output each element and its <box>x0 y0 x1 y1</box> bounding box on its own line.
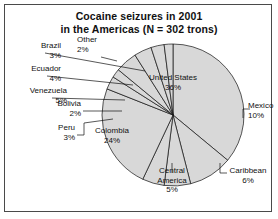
slice-label-colombia-name: Colombia <box>81 126 143 136</box>
leader-other <box>101 57 117 61</box>
pie-chart: Brazil 3% Ecuador 4% Venezuela 5% Bolivi… <box>5 5 273 213</box>
slice-label-central-america-line1: Central <box>146 166 198 176</box>
slice-label-central-america-value: 5% <box>146 185 198 195</box>
slice-label-colombia-value: 24% <box>81 136 143 146</box>
slice-label-brazil-name: Brazil <box>11 41 61 51</box>
slice-label-mexico-name: Mexico <box>248 101 278 111</box>
slice-label-central-america: Central America 5% <box>146 166 198 195</box>
slice-label-ecuador-value: 4% <box>5 74 61 84</box>
slice-label-other-value: 2% <box>77 45 121 55</box>
slice-label-mexico: Mexico 10% <box>248 101 278 120</box>
slice-label-colombia: Colombia 24% <box>81 126 143 145</box>
slice-label-ecuador: Ecuador 4% <box>5 64 61 83</box>
slice-label-brazil-value: 3% <box>11 51 61 61</box>
slice-label-united-states: United States 36% <box>136 73 210 92</box>
slice-label-venezuela-name: Venezuela <box>5 86 67 96</box>
slice-label-caribbean: Caribbean 6% <box>224 166 272 185</box>
slice-label-united-states-value: 36% <box>136 83 210 93</box>
slice-label-peru-value: 3% <box>27 133 75 143</box>
slice-label-caribbean-value: 6% <box>224 176 272 186</box>
pie-slices <box>102 44 244 186</box>
slice-label-peru-name: Peru <box>27 123 75 133</box>
slice-label-peru: Peru 3% <box>27 123 75 142</box>
slice-label-caribbean-name: Caribbean <box>224 166 272 176</box>
slice-label-central-america-line2: America <box>146 176 198 186</box>
slice-label-other: Other 2% <box>77 35 121 54</box>
slice-label-ecuador-name: Ecuador <box>5 64 61 74</box>
chart-frame: Cocaine seizures in 2001 in the Americas… <box>4 4 272 212</box>
slice-label-mexico-value: 10% <box>248 111 278 121</box>
slice-label-bolivia-value: 2% <box>33 109 81 119</box>
slice-label-bolivia: Bolivia 2% <box>33 99 81 118</box>
slice-label-brazil: Brazil 3% <box>11 41 61 60</box>
slice-label-other-name: Other <box>77 35 121 45</box>
slice-label-bolivia-name: Bolivia <box>33 99 81 109</box>
slice-label-united-states-name: United States <box>136 73 210 83</box>
